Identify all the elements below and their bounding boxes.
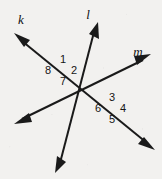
line-label-l: l [81,8,95,21]
line-label-k: k [14,13,28,26]
angle-label-8: 8 [42,65,54,76]
diagram-canvas [0,0,162,179]
line-m-arrowhead-lower-left [14,113,32,124]
angle-label-1: 1 [57,54,69,65]
angle-label-3: 3 [106,92,118,103]
angle-label-4: 4 [117,103,129,114]
angle-label-7: 7 [57,76,69,87]
angle-label-5: 5 [106,114,118,125]
line-l-arrowhead-upper-right [89,22,99,39]
line-k-segment [22,41,147,143]
line-l-arrowhead-lower-left [55,156,66,173]
geometry-figure: k l m 1 2 8 7 3 4 6 5 [0,0,162,179]
angle-label-6: 6 [92,103,104,114]
angle-label-2: 2 [68,65,80,76]
line-label-m: m [131,45,145,58]
line-m [14,54,151,124]
